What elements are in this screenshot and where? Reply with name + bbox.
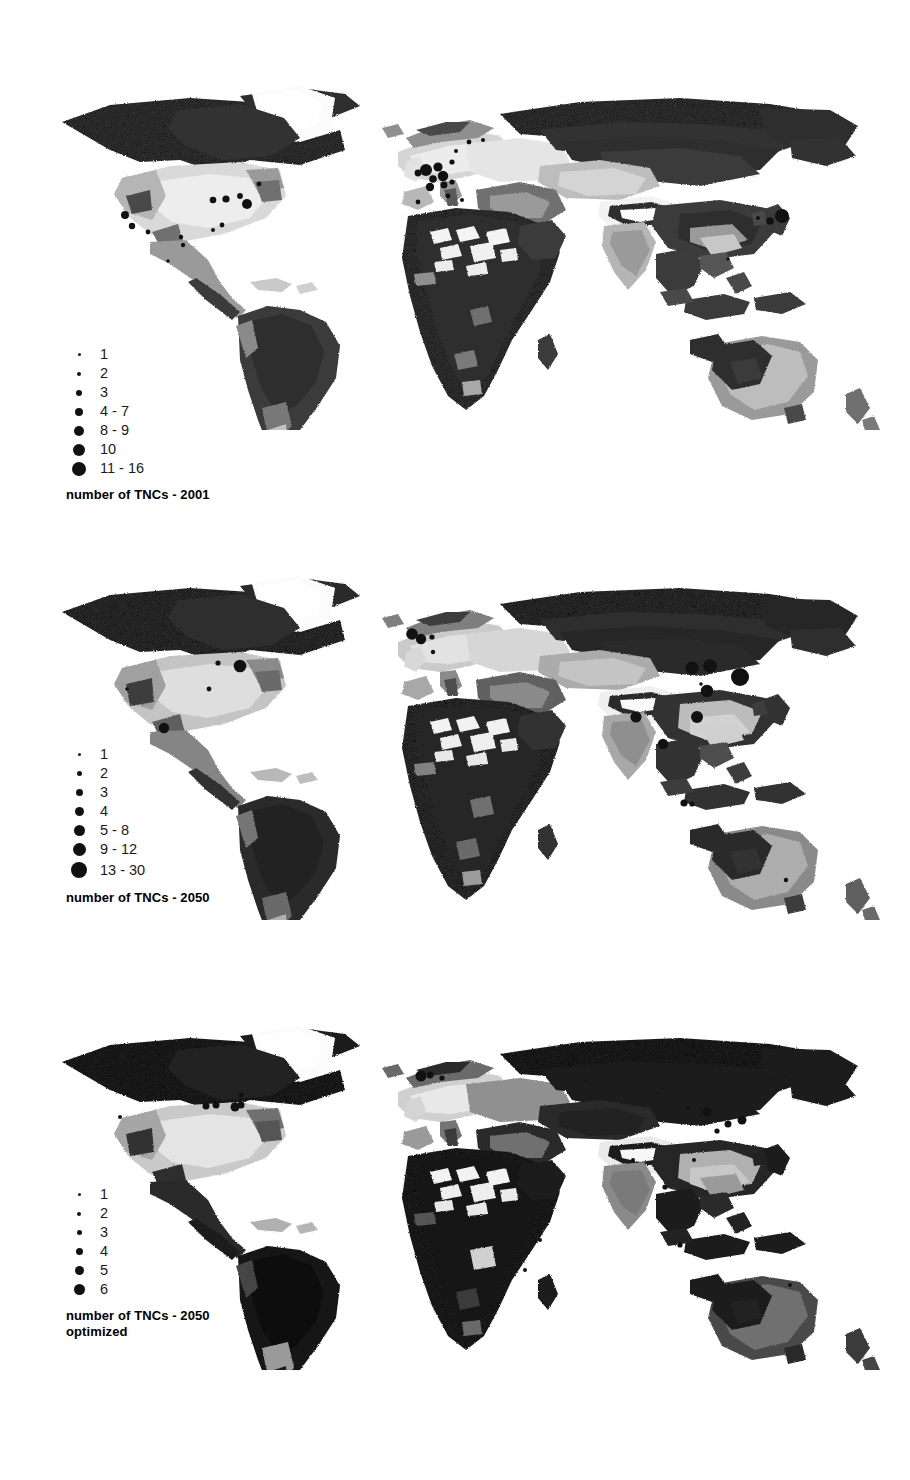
legend-dot-icon [66, 353, 92, 356]
legend-label: 4 [92, 1242, 108, 1261]
legend-label: 5 - 8 [92, 821, 129, 840]
legend-row: 4 [66, 802, 296, 821]
map-panel-2050: 1 2 3 4 5 - 8 9 - 12 [0, 500, 910, 970]
legend-row: 5 - 8 [66, 821, 296, 840]
legend-row: 8 - 9 [66, 421, 296, 440]
legend-dot-icon [66, 390, 92, 396]
legend-dot-icon [66, 807, 92, 816]
legend-label: 10 [92, 440, 116, 459]
legend-caption: number of TNCs - 2050 [66, 890, 296, 906]
legend-row: 2 [66, 764, 296, 783]
legend-dot-icon [66, 408, 92, 416]
legend-label: 3 [92, 383, 108, 402]
legend-row: 4 [66, 1242, 296, 1261]
legend-label: 3 [92, 1223, 108, 1242]
legend-2050-optimized: 1 2 3 4 5 6 number of TNCs - 205 [66, 1185, 296, 1340]
legend-dot-icon [66, 1284, 92, 1295]
legend-row: 1 [66, 345, 296, 364]
legend-2050: 1 2 3 4 5 - 8 9 - 12 [66, 745, 296, 906]
legend-dot-icon [66, 771, 92, 776]
legend-dot-icon [66, 462, 92, 476]
legend-row: 1 [66, 1185, 296, 1204]
legend-dot-icon [66, 753, 92, 756]
legend-label: 2 [92, 364, 108, 383]
legend-label: 8 - 9 [92, 421, 129, 440]
legend-label: 11 - 16 [92, 459, 144, 478]
legend-row: 4 - 7 [66, 402, 296, 421]
legend-dot-icon [66, 426, 92, 436]
figure-container: 1 2 3 4 - 7 8 - 9 10 [0, 0, 910, 1480]
legend-label: 1 [92, 1185, 108, 1204]
legend-dot-icon [66, 1248, 92, 1255]
legend-dot-icon [66, 1193, 92, 1196]
legend-row: 1 [66, 745, 296, 764]
legend-row: 2 [66, 364, 296, 383]
legend-label: 5 [92, 1261, 108, 1280]
legend-dot-icon [66, 444, 92, 456]
map-panel-2050-optimized: 1 2 3 4 5 6 number of TNCs - 205 [0, 950, 910, 1420]
legend-row: 3 [66, 783, 296, 802]
legend-label: 2 [92, 1204, 108, 1223]
legend-row: 3 [66, 383, 296, 402]
map-panel-2001: 1 2 3 4 - 7 8 - 9 10 [0, 10, 910, 480]
legend-label: 2 [92, 764, 108, 783]
legend-label: 4 - 7 [92, 402, 129, 421]
legend-row: 9 - 12 [66, 840, 296, 859]
legend-label: 3 [92, 783, 108, 802]
legend-dot-icon [66, 372, 92, 376]
legend-row: 11 - 16 [66, 459, 296, 478]
legend-dot-icon [66, 789, 92, 796]
legend-dot-icon [66, 825, 92, 836]
legend-label: 6 [92, 1280, 108, 1299]
legend-row: 13 - 30 [66, 859, 296, 881]
legend-row: 5 [66, 1261, 296, 1280]
legend-row: 2 [66, 1204, 296, 1223]
legend-caption: number of TNCs - 2050 optimized [66, 1308, 296, 1340]
legend-dot-icon [66, 843, 92, 856]
legend-dot-icon [66, 862, 92, 878]
legend-label: 1 [92, 345, 108, 364]
legend-row: 10 [66, 440, 296, 459]
legend-2001: 1 2 3 4 - 7 8 - 9 10 [66, 345, 296, 503]
legend-dot-icon [66, 1230, 92, 1235]
legend-dot-icon [66, 1266, 92, 1275]
legend-row: 6 [66, 1280, 296, 1299]
legend-label: 13 - 30 [92, 861, 145, 880]
legend-label: 1 [92, 745, 108, 764]
legend-row: 3 [66, 1223, 296, 1242]
legend-label: 4 [92, 802, 108, 821]
legend-label: 9 - 12 [92, 840, 137, 859]
legend-dot-icon [66, 1212, 92, 1216]
